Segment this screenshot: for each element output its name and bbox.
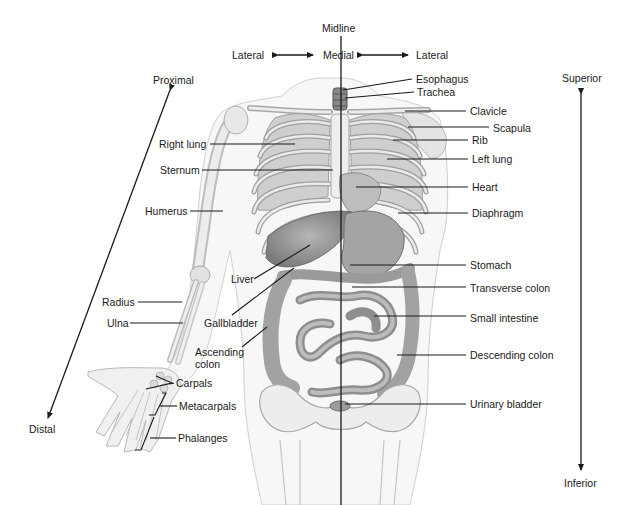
label-ulna: Ulna bbox=[107, 317, 129, 329]
label-proximal: Proximal bbox=[153, 74, 194, 86]
label-phalanges: Phalanges bbox=[178, 432, 228, 444]
label-humerus: Humerus bbox=[145, 205, 188, 217]
label-midline: Midline bbox=[322, 22, 355, 34]
label-right-lung: Right lung bbox=[159, 138, 206, 150]
label-superior: Superior bbox=[562, 72, 602, 84]
label-trachea: Trachea bbox=[417, 86, 455, 98]
label-left-lung: Left lung bbox=[472, 153, 512, 165]
label-heart: Heart bbox=[472, 181, 498, 193]
label-carpals: Carpals bbox=[176, 377, 212, 389]
label-diaphragm: Diaphragm bbox=[472, 207, 523, 219]
label-transverse-colon: Transverse colon bbox=[470, 282, 550, 294]
label-esophagus: Esophagus bbox=[416, 73, 469, 85]
label-scapula: Scapula bbox=[493, 122, 531, 134]
label-medial: Medial bbox=[323, 49, 354, 61]
label-inferior: Inferior bbox=[564, 477, 597, 489]
label-rib: Rib bbox=[472, 134, 488, 146]
label-gallbladder: Gallbladder bbox=[204, 317, 258, 329]
bladder-illustration bbox=[330, 401, 350, 411]
label-descending-colon: Descending colon bbox=[470, 349, 553, 361]
label-urinary-bladder: Urinary bladder bbox=[470, 398, 542, 410]
label-ascending-colon-1: Ascending bbox=[195, 346, 244, 358]
label-small-intestine: Small intestine bbox=[470, 312, 538, 324]
label-clavicle: Clavicle bbox=[470, 105, 507, 117]
anatomy-diagram: Midline Lateral Medial Lateral Proximal … bbox=[0, 0, 631, 505]
label-lateral-right: Lateral bbox=[416, 49, 448, 61]
label-stomach: Stomach bbox=[470, 259, 511, 271]
label-liver: Liver bbox=[231, 273, 254, 285]
label-distal: Distal bbox=[29, 423, 55, 435]
trachea-illustration bbox=[333, 88, 347, 110]
label-sternum: Sternum bbox=[160, 164, 200, 176]
label-ascending-colon-2: colon bbox=[195, 358, 220, 370]
label-radius: Radius bbox=[102, 296, 135, 308]
label-lateral-left: Lateral bbox=[232, 49, 264, 61]
label-metacarpals: Metacarpals bbox=[179, 400, 236, 412]
